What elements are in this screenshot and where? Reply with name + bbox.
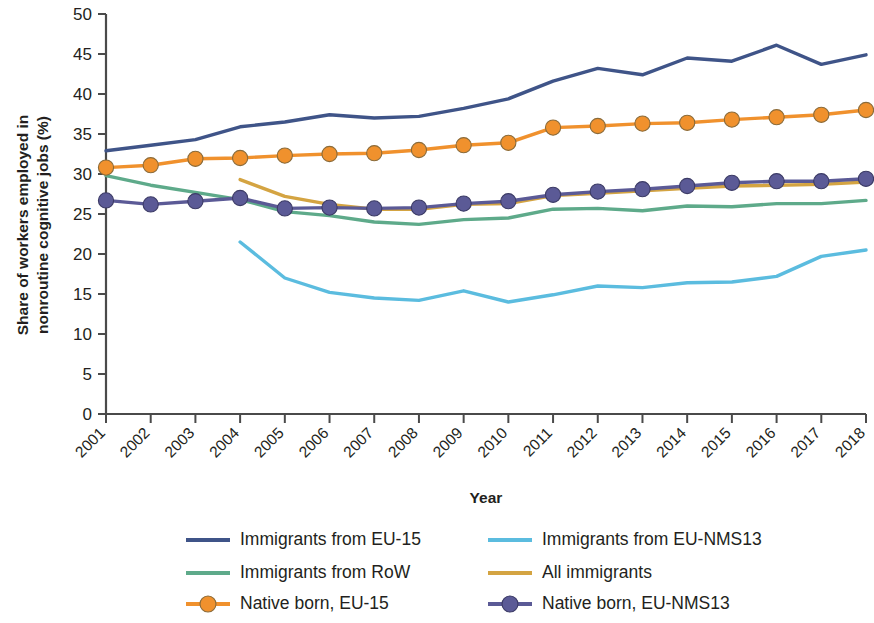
- legend-item[interactable]: Immigrants from RoW: [186, 562, 411, 582]
- x-tick-label: 2018: [832, 424, 868, 460]
- data-point-native-born-eu-15: [367, 146, 382, 161]
- y-tick-label: 50: [73, 5, 92, 24]
- x-tick-label: 2006: [295, 424, 331, 460]
- data-point-native-born-eu-nms13: [858, 171, 873, 186]
- data-point-native-born-eu-nms13: [143, 197, 158, 212]
- data-point-native-born-eu-15: [724, 112, 739, 127]
- data-point-native-born-eu-nms13: [188, 194, 203, 209]
- y-tick-label: 45: [73, 45, 92, 64]
- legend-marker: [502, 596, 518, 612]
- legend-label: All immigrants: [542, 562, 652, 582]
- data-point-native-born-eu-15: [143, 158, 158, 173]
- y-tick-label: 15: [73, 285, 92, 304]
- data-point-native-born-eu-15: [411, 142, 426, 157]
- x-tick-label: 2012: [563, 424, 599, 460]
- legend-item[interactable]: Immigrants from EU-NMS13: [488, 529, 762, 549]
- data-point-native-born-eu-nms13: [635, 182, 650, 197]
- data-point-native-born-eu-nms13: [590, 184, 605, 199]
- y-tick-label: 25: [73, 205, 92, 224]
- y-tick-label: 5: [83, 365, 92, 384]
- data-point-native-born-eu-nms13: [769, 174, 784, 189]
- x-tick-label: 2016: [742, 424, 778, 460]
- x-tick-label: 2004: [206, 424, 243, 461]
- data-point-native-born-eu-15: [590, 118, 605, 133]
- x-tick-label: 2011: [520, 424, 556, 460]
- data-point-native-born-eu-15: [501, 135, 516, 150]
- legend-label: Native born, EU-15: [240, 593, 389, 613]
- data-point-native-born-eu-15: [635, 116, 650, 131]
- x-tick-label: 2010: [474, 424, 511, 461]
- data-point-native-born-eu-15: [233, 150, 248, 165]
- x-tick-label: 2003: [161, 424, 197, 460]
- data-point-native-born-eu-15: [814, 107, 829, 122]
- x-tick-label: 2013: [608, 424, 644, 460]
- legend-item[interactable]: Immigrants from EU-15: [186, 529, 421, 549]
- data-point-native-born-eu-15: [322, 146, 337, 161]
- data-point-native-born-eu-15: [188, 151, 203, 166]
- data-point-native-born-eu-15: [680, 115, 695, 130]
- data-point-native-born-eu-15: [456, 138, 471, 153]
- data-point-native-born-eu-nms13: [98, 193, 113, 208]
- y-tick-label: 20: [73, 245, 92, 264]
- y-tick-label: 40: [73, 85, 92, 104]
- legend-item[interactable]: Native born, EU-15: [186, 593, 389, 613]
- x-tick-label: 2017: [787, 424, 823, 460]
- x-tick-label: 2005: [251, 424, 287, 460]
- legend-label: Immigrants from EU-NMS13: [542, 529, 762, 549]
- data-point-native-born-eu-15: [858, 102, 873, 117]
- series-line-immigrants-from-eu-nms13: [240, 242, 866, 302]
- data-point-native-born-eu-nms13: [545, 187, 560, 202]
- data-point-native-born-eu-nms13: [456, 196, 471, 211]
- data-point-native-born-eu-15: [98, 160, 113, 175]
- y-tick-label: 10: [73, 325, 92, 344]
- y-axis-title-line2: nonroutine cognitive jobs (%): [34, 116, 51, 334]
- y-tick-label: 30: [73, 165, 92, 184]
- data-point-native-born-eu-nms13: [322, 200, 337, 215]
- data-point-native-born-eu-15: [277, 148, 292, 163]
- x-tick-label: 2001: [72, 424, 108, 460]
- data-point-native-born-eu-nms13: [411, 200, 426, 215]
- x-tick-label: 2002: [116, 424, 152, 460]
- legend-label: Immigrants from EU-15: [240, 529, 421, 549]
- x-tick-label: 2009: [429, 424, 465, 460]
- x-axis-title: Year: [470, 489, 503, 506]
- chart-figure: 0510152025303540455020012002200320042005…: [0, 0, 874, 623]
- legend-item[interactable]: All immigrants: [488, 562, 652, 582]
- y-tick-label: 35: [73, 125, 92, 144]
- x-tick-label: 2007: [340, 424, 376, 460]
- line-chart: 0510152025303540455020012002200320042005…: [0, 0, 874, 623]
- data-point-native-born-eu-nms13: [724, 175, 739, 190]
- y-axis-title-line1: Share of workers employed in: [14, 115, 31, 336]
- series-line-immigrants-from-eu-15: [106, 45, 866, 151]
- x-tick-label: 2008: [385, 424, 421, 460]
- series-line-native-born-eu-15: [106, 110, 866, 168]
- legend-label: Native born, EU-NMS13: [542, 593, 730, 613]
- data-point-native-born-eu-nms13: [367, 201, 382, 216]
- legend-item[interactable]: Native born, EU-NMS13: [488, 593, 730, 613]
- legend-marker: [200, 596, 216, 612]
- data-point-native-born-eu-nms13: [680, 178, 695, 193]
- data-point-native-born-eu-nms13: [814, 174, 829, 189]
- data-point-native-born-eu-nms13: [501, 194, 516, 209]
- data-point-native-born-eu-nms13: [277, 201, 292, 216]
- y-tick-label: 0: [83, 405, 92, 424]
- data-point-native-born-eu-15: [545, 120, 560, 135]
- x-tick-label: 2015: [698, 424, 734, 460]
- data-point-native-born-eu-nms13: [233, 190, 248, 205]
- legend-label: Immigrants from RoW: [240, 562, 411, 582]
- data-point-native-born-eu-15: [769, 110, 784, 125]
- x-tick-label: 2014: [653, 424, 690, 461]
